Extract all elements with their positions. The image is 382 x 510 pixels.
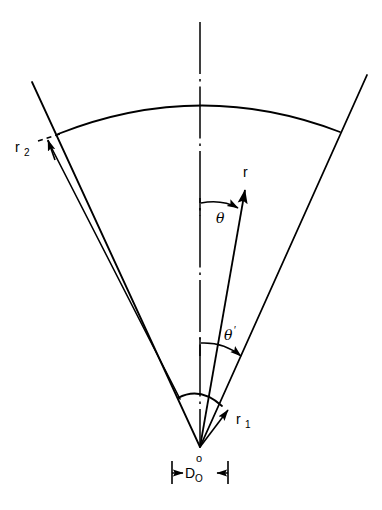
theta-prime-arc [201,343,241,356]
theta-prime-label: θ [224,327,233,343]
left-boundary-group [32,82,200,447]
left-inner-ray [48,141,180,399]
left-boundary-ray [32,82,200,447]
r1-label-group: r 1 [236,411,251,430]
outer-arc-r2 [58,105,340,134]
theta-label: θ [216,210,225,226]
r2-arrow-shaft [48,140,55,160]
origin-label: o [196,452,202,464]
dimension-d0-label: D [185,465,195,481]
r-vector-arrow [200,190,245,447]
outer-arc-group [58,105,340,134]
theta-arc [201,202,238,208]
r-vector-group: r [200,164,248,447]
r-vector-label: r [243,164,248,180]
theta-prime-mark: ′ [234,325,236,336]
r1-label: r [236,411,241,427]
right-boundary-group [200,75,367,447]
sector-geometry-diagram: r 2 r 1 r θ θ [0,0,382,510]
right-boundary-ray [200,75,367,447]
dimension-d0-subscript: O [195,473,203,484]
r2-label-subscript: 2 [24,147,30,158]
r2-leader-group [38,134,60,160]
r2-label-group: r 2 [15,139,30,158]
theta-angle-group: θ [200,198,238,226]
dimension-d0-group: D O [172,461,228,484]
figure-container: r 2 r 1 r θ θ [0,0,382,510]
r2-label: r [15,139,20,155]
origin-label-group: o [196,452,202,464]
r1-label-subscript: 1 [245,419,251,430]
